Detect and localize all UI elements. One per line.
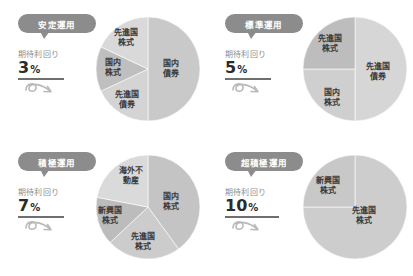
pie-slice-label: 新興国株式: [316, 176, 341, 195]
yield-value: 7%: [18, 198, 102, 215]
pie-slice-label-line: 株式: [316, 186, 341, 196]
allocation-chart-grid: 安定運用 期待利回り 3% 国内債券先進国株式国内株式先進国債券 標準運用 期待…: [0, 0, 413, 276]
pie-slice-label-line: 株式: [163, 202, 179, 212]
yield-value: 10%: [225, 198, 309, 215]
yield-number: 5: [225, 58, 236, 77]
panel-info: 安定運用 期待利回り 3%: [18, 14, 102, 80]
strategy-badge: 安定運用: [18, 14, 96, 42]
pie-slice-label-line: 株式: [105, 68, 121, 78]
pie-slice-label-line: 国内: [163, 59, 179, 69]
strategy-badge: 積極運用: [18, 152, 96, 180]
allocation-panel-stable: 安定運用 期待利回り 3% 国内債券先進国株式国内株式先進国債券: [0, 0, 206, 138]
pie-slice-label-line: 株式: [352, 216, 377, 226]
strategy-badge-tail: [247, 31, 257, 39]
allocation-panel-ultra-aggressive: 超積極運用 期待利回り 10% 先進国株式新興国株式: [207, 138, 413, 276]
pie-slice-label-line: 新興国: [316, 176, 341, 186]
pie-slice-label: 先進国債券: [115, 90, 140, 109]
pie-slice-label-line: 動産: [119, 176, 144, 186]
pie-slice-label: 先進国株式: [318, 34, 343, 53]
strategy-badge: 超積極運用: [225, 152, 303, 180]
pie-slice-label: 海外不動産: [119, 166, 144, 185]
strategy-badge: 標準運用: [225, 14, 303, 42]
panel-info: 超積極運用 期待利回り 10%: [225, 152, 309, 218]
pie-slice-label-line: 新興国: [98, 206, 123, 216]
pie-slice-label-line: 株式: [324, 98, 340, 108]
yield-number: 3: [18, 58, 29, 77]
yield-unit: %: [30, 64, 40, 75]
pie-svg: [302, 16, 408, 122]
pie-chart: 先進国債券先進国株式国内株式: [302, 16, 408, 122]
yield-unit: %: [248, 202, 258, 213]
yield-unit: %: [237, 64, 247, 75]
pie-slice-label-line: 先進国: [131, 232, 156, 242]
pie-slice-label: 新興国株式: [98, 206, 123, 225]
pie-slice-label-line: 国内: [324, 88, 340, 98]
pie-chart: 先進国株式新興国株式: [302, 154, 408, 260]
panel-info: 積極運用 期待利回り 7%: [18, 152, 102, 218]
pie-slice-label-line: 海外不: [119, 166, 144, 176]
pie-slice-label-line: 先進国: [115, 90, 140, 100]
allocation-panel-aggressive: 積極運用 期待利回り 7% 国内株式先進国株式新興国株式海外不動産: [0, 138, 206, 276]
pie-slice-label: 国内株式: [105, 58, 121, 77]
pie-slice-label-line: 株式: [318, 44, 343, 54]
pie-slice-label-line: 先進国: [352, 206, 377, 216]
pie-slice-label: 先進国株式: [131, 232, 156, 251]
pie-slice-label-line: 債券: [115, 100, 140, 110]
strategy-badge-tail: [40, 169, 50, 177]
yield-label: 期待利回り: [225, 48, 309, 59]
pie-slice-label-line: 先進国: [114, 28, 139, 38]
yield-unit: %: [30, 202, 40, 213]
pie-slice-label-line: 先進国: [318, 34, 343, 44]
yield-label: 期待利回り: [18, 186, 102, 197]
curly-arrow-icon: [22, 76, 68, 102]
strategy-badge-label: 安定運用: [18, 14, 96, 33]
strategy-badge-label: 積極運用: [18, 152, 96, 171]
pie-chart: 国内株式先進国株式新興国株式海外不動産: [95, 154, 201, 260]
pie-slice-label-line: 株式: [98, 216, 123, 226]
pie-slice-label-line: 株式: [114, 38, 139, 48]
pie-slice-label-line: 国内: [105, 58, 121, 68]
pie-slice-label: 先進国株式: [114, 28, 139, 47]
pie-slice-label-line: 国内: [163, 192, 179, 202]
panel-info: 標準運用 期待利回り 5%: [225, 14, 309, 80]
pie-slice-label: 国内債券: [163, 59, 179, 78]
strategy-badge-tail: [247, 169, 257, 177]
strategy-badge-label: 標準運用: [225, 14, 303, 33]
yield-value: 3%: [18, 60, 102, 77]
curly-arrow-icon: [22, 214, 68, 240]
yield-number: 10: [225, 196, 247, 215]
strategy-badge-tail: [40, 31, 50, 39]
pie-slice-label: 先進国株式: [352, 206, 377, 225]
allocation-panel-standard: 標準運用 期待利回り 5% 先進国債券先進国株式国内株式: [207, 0, 413, 138]
curly-arrow-icon: [229, 214, 275, 240]
pie-slice-label: 国内株式: [163, 192, 179, 211]
pie-chart: 国内債券先進国株式国内株式先進国債券: [95, 16, 201, 122]
pie-slice-label-line: 株式: [131, 242, 156, 252]
yield-label: 期待利回り: [18, 48, 102, 59]
yield-value: 5%: [225, 60, 309, 77]
pie-slice-label-line: 債券: [366, 72, 391, 82]
pie-slice-label-line: 債券: [163, 69, 179, 79]
yield-number: 7: [18, 196, 29, 215]
curly-arrow-icon: [229, 76, 275, 102]
strategy-badge-label: 超積極運用: [225, 152, 303, 171]
pie-slice-label: 先進国債券: [366, 62, 391, 81]
pie-slice-label: 国内株式: [324, 88, 340, 107]
pie-slice-label-line: 先進国: [366, 62, 391, 72]
